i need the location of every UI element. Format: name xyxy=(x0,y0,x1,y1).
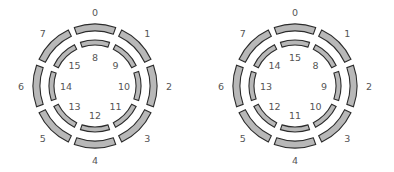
outer-ring-label: 4 xyxy=(92,155,98,166)
inner-ring-label: 13 xyxy=(68,101,80,112)
outer-ring-label: 1 xyxy=(344,28,350,39)
outer-ring-label: 7 xyxy=(40,28,46,39)
right-ring-diagram: 0123456715891011121314 xyxy=(218,7,372,166)
inner-ring-label: 12 xyxy=(89,110,101,121)
inner-ring-label: 10 xyxy=(118,81,130,92)
outer-ring-label: 5 xyxy=(240,133,246,144)
inner-ring-label: 11 xyxy=(109,101,121,112)
inner-ring-label: 15 xyxy=(289,52,301,63)
outer-ring-label: 7 xyxy=(240,28,246,39)
inner-ring-label: 10 xyxy=(309,101,321,112)
outer-ring-segment-4 xyxy=(274,138,315,148)
inner-ring-label: 14 xyxy=(268,60,280,71)
outer-ring-segment-6 xyxy=(233,65,243,106)
inner-ring-label: 11 xyxy=(289,110,301,121)
outer-ring-label: 4 xyxy=(292,155,298,166)
inner-ring-label: 9 xyxy=(112,60,118,71)
ring-diagrams: 0123456789101112131415 01234567158910111… xyxy=(0,0,394,172)
outer-ring-segment-4 xyxy=(74,138,115,148)
inner-ring-label: 12 xyxy=(268,101,280,112)
outer-ring-label: 5 xyxy=(40,133,46,144)
left-ring-diagram: 0123456789101112131415 xyxy=(18,7,172,166)
outer-ring-label: 3 xyxy=(144,133,150,144)
inner-ring-label: 9 xyxy=(321,81,327,92)
outer-ring-label: 6 xyxy=(218,81,224,92)
outer-ring-segment-2 xyxy=(147,65,157,106)
outer-ring-label: 1 xyxy=(144,28,150,39)
outer-ring-label: 0 xyxy=(292,7,298,18)
inner-ring-segment-10 xyxy=(134,71,141,100)
outer-ring-label: 2 xyxy=(166,81,172,92)
inner-ring-segment-15 xyxy=(280,40,309,47)
inner-ring-segment-8 xyxy=(80,40,109,47)
outer-ring-label: 0 xyxy=(92,7,98,18)
outer-ring-segment-6 xyxy=(33,65,43,106)
outer-ring-label: 6 xyxy=(18,81,24,92)
outer-ring-segment-0 xyxy=(74,24,115,34)
inner-ring-segment-13 xyxy=(249,71,256,100)
inner-ring-segment-14 xyxy=(49,71,56,100)
inner-ring-label: 8 xyxy=(312,60,318,71)
inner-ring-label: 13 xyxy=(260,81,272,92)
inner-ring-segment-11 xyxy=(280,125,309,132)
outer-ring-segment-2 xyxy=(347,65,357,106)
inner-ring-label: 14 xyxy=(60,81,72,92)
outer-ring-label: 2 xyxy=(366,81,372,92)
outer-ring-segment-0 xyxy=(274,24,315,34)
inner-ring-label: 15 xyxy=(68,60,80,71)
inner-ring-label: 8 xyxy=(92,52,98,63)
inner-ring-segment-9 xyxy=(334,71,341,100)
outer-ring-label: 3 xyxy=(344,133,350,144)
inner-ring-segment-12 xyxy=(80,125,109,132)
